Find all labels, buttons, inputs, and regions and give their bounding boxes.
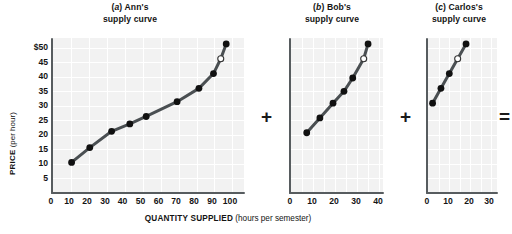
equals-operator: = (499, 107, 510, 126)
data-point-open (455, 56, 461, 62)
supply-curves-figure: (a) Ann's supply curve PRICE (per hour) … (0, 0, 512, 234)
data-point (303, 129, 310, 136)
x-tick-90: 90 (202, 197, 222, 206)
data-point-open (361, 56, 367, 62)
data-point (68, 159, 75, 166)
plus-operator-2: + (400, 107, 411, 126)
data-point (196, 85, 203, 92)
x-tick-0: 0 (280, 197, 300, 206)
data-point (463, 41, 470, 48)
data-point (429, 100, 436, 107)
x-tick-100: 100 (220, 197, 240, 206)
x-axis-label-rest: (hours per semester) (233, 214, 311, 223)
data-point (108, 128, 115, 135)
data-point (341, 88, 348, 95)
supply-curve-line (307, 44, 368, 133)
x-tick-30: 30 (346, 197, 366, 206)
x-tick-10: 10 (59, 197, 79, 206)
x-tick-10: 10 (438, 197, 458, 206)
x-tick-40: 40 (368, 197, 388, 206)
data-point (174, 98, 181, 105)
x-tick-80: 80 (184, 197, 204, 206)
data-point (86, 144, 93, 151)
x-tick-20: 20 (77, 197, 97, 206)
x-tick-0: 0 (417, 197, 437, 206)
plus-operator-1: + (261, 107, 272, 126)
x-tick-50: 50 (131, 197, 151, 206)
data-point (330, 100, 337, 107)
data-point (438, 85, 445, 92)
data-point (316, 115, 323, 122)
x-axis-label-bold: QUANTITY SUPPLIED (145, 214, 233, 223)
panel-bob: (b) Bob's supply curve 0 (282, 0, 398, 234)
data-point (365, 41, 372, 48)
data-point (210, 70, 217, 77)
x-tick-70: 70 (166, 197, 186, 206)
x-axis-label: QUANTITY SUPPLIED (hours per semester) (98, 214, 358, 223)
supply-curve-line (72, 44, 227, 162)
data-point (126, 120, 133, 127)
data-point (349, 75, 356, 82)
x-tick-20: 20 (324, 197, 344, 206)
data-point (446, 70, 453, 77)
x-tick-30: 30 (479, 197, 499, 206)
x-tick-10: 10 (302, 197, 322, 206)
x-tick-20: 20 (459, 197, 479, 206)
x-tick-0: 0 (41, 197, 61, 206)
data-point (223, 41, 230, 48)
x-tick-40: 40 (113, 197, 133, 206)
panel-ann: (a) Ann's supply curve PRICE (per hour) … (0, 0, 258, 234)
data-point (143, 113, 150, 120)
data-point-open (218, 56, 224, 62)
